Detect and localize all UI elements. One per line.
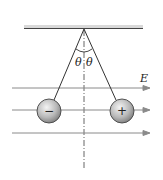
positive-charge-ball: + <box>110 99 134 123</box>
ceiling <box>24 25 143 29</box>
field-label-E: E <box>139 72 148 85</box>
angle-arc-right <box>84 49 92 52</box>
negative-sign: − <box>44 104 54 118</box>
negative-charge-ball: − <box>37 99 61 123</box>
theta-right-label: θ <box>86 56 93 69</box>
theta-left-label: θ <box>75 56 82 69</box>
positive-sign: + <box>117 104 127 118</box>
angle-arc-left <box>76 49 84 52</box>
pendulum-diagram: θ θ E − + <box>0 0 163 180</box>
